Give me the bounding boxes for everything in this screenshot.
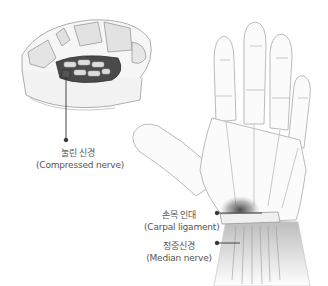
callout-label-en: (Carpal ligament) — [144, 221, 214, 233]
callout-median-nerve: 정중신경 (Median nerve) — [144, 240, 214, 264]
wrist-cross-section — [22, 20, 151, 110]
callout-carpal-ligament: 손목 인대 (Carpal ligament) — [144, 209, 214, 233]
callout-label-ko: 정중신경 — [144, 240, 214, 252]
callout-label-en: (Compressed nerve) — [36, 159, 120, 171]
callout-label-ko: 눌린 신경 — [36, 147, 120, 159]
callout-label-en: (Median nerve) — [144, 252, 214, 264]
callout-label-ko: 손목 인대 — [144, 209, 214, 221]
callout-compressed-nerve: 눌린 신경 (Compressed nerve) — [36, 147, 120, 171]
